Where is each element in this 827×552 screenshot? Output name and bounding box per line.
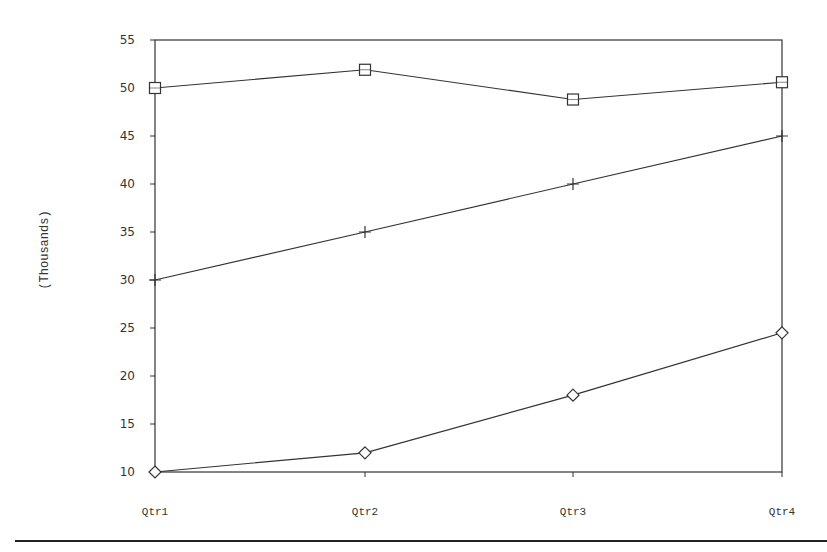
series-group (149, 64, 788, 478)
y-tick-label: 35 (120, 225, 135, 239)
series-line (155, 333, 782, 472)
series-plus (149, 130, 788, 286)
y-tick-label: 40 (120, 177, 135, 191)
line-chart: (Thousands) 10152025303540455055 Qtr1Qtr… (0, 0, 827, 552)
x-tick-label: Qtr4 (769, 506, 796, 518)
x-tick-label: Qtr1 (142, 506, 169, 518)
y-tick-label: 45 (120, 129, 135, 143)
series-line (155, 136, 782, 280)
y-tick-label: 50 (120, 81, 135, 95)
diamond-marker-icon (776, 327, 788, 339)
y-axis-ticks: 10152025303540455055 (120, 33, 155, 479)
plus-marker-icon (567, 178, 579, 190)
y-tick-label: 25 (120, 321, 135, 335)
y-axis-title: (Thousands) (38, 210, 52, 289)
y-tick-label: 10 (120, 465, 135, 479)
plus-marker-icon (776, 130, 788, 142)
y-tick-label: 20 (120, 369, 135, 383)
y-tick-label: 15 (120, 417, 135, 431)
plot-frame (155, 40, 782, 472)
y-axis-label: (Thousands) (38, 210, 52, 289)
diamond-marker-icon (149, 466, 161, 478)
diamond-marker-icon (567, 389, 579, 401)
x-axis-ticks: Qtr1Qtr2Qtr3Qtr4 (142, 472, 796, 518)
series-square (150, 64, 788, 105)
plot-area (155, 40, 782, 472)
y-tick-label: 30 (120, 273, 135, 287)
plus-marker-icon (359, 226, 371, 238)
x-tick-label: Qtr2 (352, 506, 378, 518)
plus-marker-icon (149, 274, 161, 286)
series-diamond (149, 327, 788, 478)
series-line (155, 70, 782, 100)
x-tick-label: Qtr3 (560, 506, 586, 518)
diamond-marker-icon (359, 447, 371, 459)
y-tick-label: 55 (120, 33, 135, 47)
